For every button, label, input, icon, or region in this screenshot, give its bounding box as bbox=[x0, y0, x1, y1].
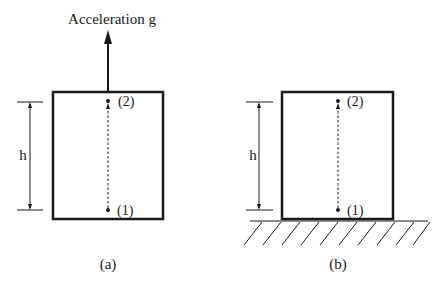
caption-a: (a) bbox=[100, 256, 117, 273]
dimension-h-label: h bbox=[249, 147, 257, 163]
point-2-marker-icon bbox=[106, 99, 110, 109]
panel-a: Acceleration g h (2) (1) (a) bbox=[17, 11, 163, 273]
point-1-marker-icon bbox=[336, 208, 340, 212]
caption-b: (b) bbox=[329, 256, 347, 273]
point-2-marker-icon bbox=[336, 99, 340, 109]
point-1-label: (1) bbox=[347, 203, 364, 219]
diagram-canvas: Acceleration g h (2) (1) (a) bbox=[0, 0, 444, 286]
acceleration-label: Acceleration g bbox=[68, 11, 156, 27]
ground-hatch-icon bbox=[244, 221, 430, 245]
point-1-label: (1) bbox=[117, 203, 134, 219]
panel-b: h (2) (1) (b) bbox=[244, 92, 430, 273]
point-2-label: (2) bbox=[118, 94, 135, 110]
dimension-h-label: h bbox=[19, 147, 27, 163]
acceleration-arrow-icon bbox=[104, 30, 112, 92]
point-1-marker-icon bbox=[106, 208, 110, 212]
point-2-label: (2) bbox=[347, 94, 364, 110]
